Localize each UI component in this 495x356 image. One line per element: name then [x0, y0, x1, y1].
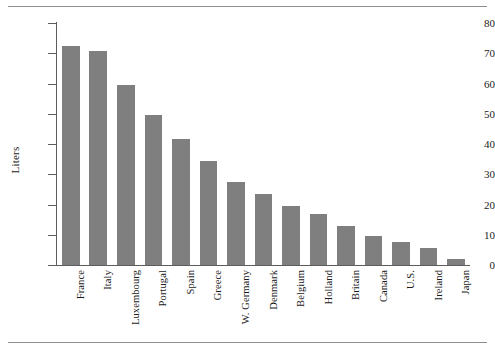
bar	[447, 259, 465, 265]
x-tick-label: W. Germany	[240, 270, 251, 324]
x-tick-label: Luxembourg	[130, 270, 141, 325]
x-tick-label: Ireland	[433, 270, 444, 300]
bar	[117, 85, 135, 265]
bar	[62, 46, 80, 265]
bar	[89, 51, 107, 265]
chart-figure: Liters 01020304050607080 FranceItalyLuxe…	[0, 0, 495, 356]
x-tick-label: Greece	[212, 270, 223, 300]
bar	[365, 236, 383, 265]
bar	[310, 214, 328, 265]
y-tick-mark	[48, 144, 56, 145]
y-tick-mark	[48, 205, 56, 206]
x-tick-label: Belgium	[295, 270, 306, 307]
x-tick-label: U.S.	[405, 270, 416, 289]
top-divider-rule	[8, 6, 487, 7]
x-tick-label: Holland	[323, 270, 334, 305]
x-tick-label: Italy	[102, 270, 113, 290]
y-tick-mark	[48, 265, 56, 266]
bar	[392, 242, 410, 265]
y-tick-mark	[48, 235, 56, 236]
y-tick-mark	[48, 114, 56, 115]
y-tick-mark	[48, 53, 56, 54]
bar	[337, 226, 355, 265]
x-axis-baseline	[56, 265, 470, 266]
bar	[420, 248, 438, 265]
bottom-divider-rule	[8, 342, 487, 343]
x-tick-label: Britain	[350, 270, 361, 300]
y-tick-mark	[48, 84, 56, 85]
bar-series	[57, 23, 470, 265]
y-tick-mark	[48, 23, 56, 24]
x-tick-label: Spain	[185, 270, 196, 294]
x-tick-label: France	[75, 270, 86, 299]
bar	[172, 139, 190, 265]
x-tick-label: Denmark	[268, 270, 279, 310]
x-tick-label: Canada	[378, 270, 389, 302]
y-tick-mark	[48, 174, 56, 175]
y-axis-title: Liters	[0, 149, 45, 171]
bar	[145, 115, 163, 265]
bar	[227, 182, 245, 265]
bar	[255, 194, 273, 265]
x-tick-label: Japan	[460, 270, 471, 294]
bar	[282, 206, 300, 265]
bar	[200, 161, 218, 265]
x-tick-label: Portugal	[157, 270, 168, 306]
